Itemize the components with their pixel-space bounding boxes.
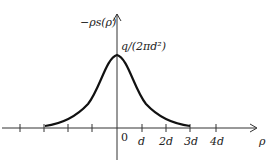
y-axis-label: −ρs(ρ) xyxy=(80,16,116,29)
tick-label-d: d xyxy=(138,135,145,148)
tick-label-3d: 3d xyxy=(184,135,198,148)
tick-label-0: 0 xyxy=(121,131,128,144)
x-axis-label: ρ xyxy=(258,135,266,148)
tick-label-2d: 2d xyxy=(158,135,173,148)
tick-label-4d: 4d xyxy=(209,135,224,148)
peak-label: q/(2πd²) xyxy=(121,40,166,53)
plot: −ρs(ρ) q/(2πd²) ρ 0 d 2d 3d 4d xyxy=(0,0,274,168)
